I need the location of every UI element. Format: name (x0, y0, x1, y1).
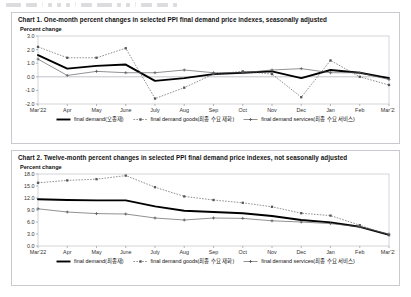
y-tick-label: 15.0 (24, 183, 35, 189)
chart1-title: Chart 1. One-month percent changes in se… (12, 13, 399, 24)
chart2-legend: final demand(최종재)final demand goods(최종 수… (12, 257, 399, 265)
y-tick-label: -2.0 (25, 101, 34, 107)
chart1-legend: final demand(오종재)final demand goods(최종 수… (12, 115, 399, 123)
legend-item[interactable]: final demand services(최종 수요 서비스) (243, 258, 355, 265)
legend-swatch-dotted-square (133, 258, 148, 265)
legend-swatch-solid-thick (56, 258, 71, 265)
legend-label: final demand(최종재) (74, 259, 123, 264)
x-tick-label: May (91, 249, 101, 255)
x-tick-label: Mar'22 (30, 249, 46, 255)
x-tick-label: Oct (239, 107, 248, 113)
x-tick-label: Jan (326, 249, 335, 255)
chart2-title: Chart 2. Twelve-month percent changes in… (12, 151, 399, 162)
x-tick-label: Sep (209, 249, 219, 255)
x-tick-label: Apr (63, 249, 72, 255)
series-solid-thin-plus (37, 58, 391, 81)
application-toolbar[interactable] (0, 0, 411, 9)
legend-item[interactable]: final demand services(최종 수요 서비스) (243, 116, 355, 123)
y-tick-label: 2.0 (27, 46, 35, 52)
italic-icon[interactable] (126, 3, 130, 7)
chart2-axis-label: Percent change (12, 162, 399, 170)
x-tick-label: Nov (267, 107, 277, 113)
chart1-plot-area: -2.0-1.00.01.02.03.0Mar'22AprMayJuneJuly… (12, 32, 399, 115)
y-tick-label: 0.0 (27, 243, 35, 249)
series-dotted-square (37, 174, 390, 236)
x-tick-label: Jan (326, 107, 335, 113)
toolbar-separator (42, 2, 43, 7)
toolbar-separator (75, 2, 76, 7)
x-tick-label: July (150, 249, 160, 255)
chart2-card: Chart 2. Twelve-month percent changes in… (11, 150, 400, 286)
legend-label: final demand services(최종 수요 서비스) (261, 117, 355, 122)
x-tick-label: Feb (355, 107, 364, 113)
legend-item[interactable]: final demand goods(최종 수요 재화) (133, 258, 235, 265)
legend-swatch-solid-thin-plus (243, 258, 258, 265)
chart1-axis-label: Percent change (12, 24, 399, 32)
y-tick-label: -1.0 (25, 87, 34, 93)
legend-label: final demand(오종재) (74, 117, 123, 122)
x-tick-label: Mar'22 (30, 107, 46, 113)
list-icon[interactable] (157, 3, 168, 7)
insert-icon[interactable] (173, 3, 177, 7)
x-tick-label: June (120, 249, 132, 255)
print-icon[interactable] (66, 3, 70, 7)
x-tick-label: June (120, 107, 132, 113)
x-tick-label: Nov (267, 249, 277, 255)
x-tick-label: July (150, 107, 160, 113)
align-icon[interactable] (141, 3, 152, 7)
bold-icon[interactable] (117, 3, 121, 7)
x-tick-label: May (91, 107, 101, 113)
legend-swatch-dotted-square (133, 116, 148, 123)
x-tick-label: Dec (296, 107, 306, 113)
legend-swatch-solid-thin-plus (243, 116, 258, 123)
x-tick-label: Oct (239, 249, 248, 255)
font-size-selector[interactable] (97, 3, 112, 7)
legend-label: final demand services(최종 수요 서비스) (261, 259, 355, 264)
y-tick-label: 3.0 (27, 231, 35, 237)
y-tick-label: 3.0 (27, 33, 35, 39)
redo-icon[interactable] (57, 3, 61, 7)
font-selector[interactable] (81, 3, 92, 7)
chart2-svg: 0.03.06.09.012.015.018.0Mar'22AprMayJune… (16, 171, 395, 257)
x-tick-label: Aug (179, 249, 189, 255)
y-tick-label: 9.0 (27, 207, 35, 213)
legend-item[interactable]: final demand goods(최종 수요 재화) (133, 116, 235, 123)
legend-label: final demand goods(최종 수요 재화) (151, 259, 235, 264)
x-tick-label: Aug (179, 107, 189, 113)
chart1-card: Chart 1. One-month percent changes in se… (11, 12, 400, 144)
chart2-plot-area: 0.03.06.09.012.015.018.0Mar'22AprMayJune… (12, 170, 399, 257)
y-tick-label: 0.0 (27, 74, 35, 80)
x-tick-label: Sep (209, 107, 219, 113)
x-tick-label: Mar'23 (381, 107, 395, 113)
x-tick-label: Mar'23 (381, 249, 395, 255)
y-tick-label: 18.0 (24, 171, 35, 177)
screenshot-root: Chart 1. One-month percent changes in se… (0, 0, 411, 297)
x-tick-label: Dec (296, 249, 306, 255)
x-tick-label: Apr (63, 107, 72, 113)
y-tick-label: 1.0 (27, 60, 35, 66)
y-tick-label: 12.0 (24, 195, 35, 201)
x-tick-label: Feb (355, 249, 364, 255)
toolbar-separator (135, 2, 136, 7)
legend-label: final demand goods(최종 수요 재화) (151, 117, 235, 122)
save-icon[interactable] (26, 3, 37, 7)
undo-icon[interactable] (48, 3, 52, 7)
y-tick-label: 6.0 (27, 219, 35, 225)
chart1-svg: -2.0-1.00.01.02.03.0Mar'22AprMayJuneJuly… (16, 33, 395, 115)
menu-icon[interactable] (6, 3, 21, 7)
legend-item[interactable]: final demand(최종재) (56, 258, 123, 265)
legend-item[interactable]: final demand(오종재) (56, 116, 123, 123)
legend-swatch-solid-thick (56, 116, 71, 123)
